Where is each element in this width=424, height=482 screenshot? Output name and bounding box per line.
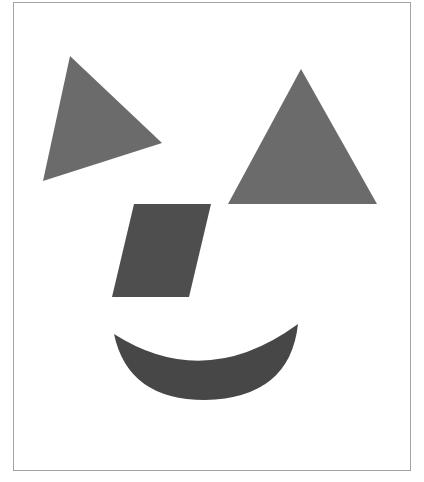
mouth-crescent (114, 324, 298, 400)
nose-parallelogram (112, 204, 211, 297)
right-eye-triangle (228, 69, 377, 204)
left-eye-triangle (43, 56, 162, 181)
shapes-canvas (0, 0, 424, 482)
